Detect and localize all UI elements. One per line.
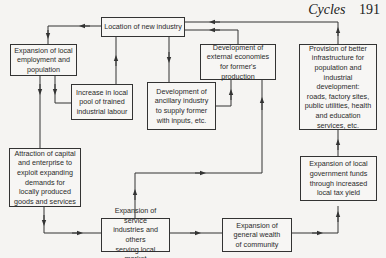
box-expansion-government-funds: Expansion of local government funds thro…: [300, 156, 377, 201]
box-location-of-new-industry: Location of new industry: [101, 17, 185, 37]
box-expansion-local-employment: Expansion of local employment and popula…: [10, 44, 77, 76]
box-expansion-general-wealth: Expansion of general wealth of community: [222, 218, 292, 252]
box-attraction-of-capital: Attraction of capital and enterprise to …: [9, 148, 81, 207]
cumulative-causation-diagram: Cycles 191: [0, 0, 386, 258]
box-ancillary-industry: Development of ancillary industry to sup…: [147, 82, 216, 130]
box-infrastructure-provision: Provision of better infrastructure for p…: [299, 44, 377, 130]
box-expansion-service-industries: Expansion of service industries and othe…: [101, 218, 170, 252]
box-external-economies: Development of external economies for fo…: [200, 44, 276, 80]
box-increase-labour-pool: Increase in local pool of trained indust…: [71, 84, 133, 120]
